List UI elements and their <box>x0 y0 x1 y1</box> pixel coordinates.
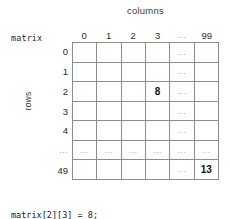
grid-cell <box>73 82 97 102</box>
grid-cell-ellipsis: ... <box>122 141 146 161</box>
grid-cell <box>73 121 97 141</box>
grid-cell-ellipsis: ... <box>170 160 194 180</box>
grid-cell <box>122 43 146 63</box>
matrix-grid: ... ... 8 ... ... ... ... ... ... <box>72 42 219 180</box>
column-header-0: 0 <box>72 29 97 42</box>
grid-cell <box>97 82 121 102</box>
row-header-1: 1 <box>48 62 70 82</box>
grid-cell <box>73 160 97 180</box>
table-row: ... <box>73 43 219 63</box>
table-row: ... <box>73 102 219 122</box>
grid-cell <box>122 102 146 122</box>
table-row-ellipsis: ... ... ... ... ... ... <box>73 141 219 161</box>
table-row: ... <box>73 63 219 83</box>
grid-cell <box>122 82 146 102</box>
column-header-ellipsis: ... <box>170 29 195 42</box>
grid-cell-ellipsis: ... <box>146 141 170 161</box>
table-row: ... 13 <box>73 160 219 180</box>
grid-cell-ellipsis: ... <box>170 63 194 83</box>
row-header-ellipsis: ... <box>48 141 70 161</box>
grid-cell <box>122 121 146 141</box>
grid-cell-ellipsis: ... <box>170 141 194 161</box>
grid-cell <box>97 63 121 83</box>
code-snippet: matrix[2][3] = 8; matrix[49][99] = 13; <box>11 188 113 219</box>
column-header-2: 2 <box>121 29 146 42</box>
row-header-4: 4 <box>48 121 70 141</box>
grid-cell <box>146 160 170 180</box>
grid-cell <box>73 43 97 63</box>
row-header-49: 49 <box>48 160 70 180</box>
table-row: 8 ... <box>73 82 219 102</box>
grid-cell-ellipsis: ... <box>195 141 219 161</box>
grid-cell <box>146 121 170 141</box>
grid-cell <box>146 102 170 122</box>
grid-cell-ellipsis: ... <box>73 141 97 161</box>
column-header-1: 1 <box>97 29 122 42</box>
grid-cell-value-13: 13 <box>195 160 219 180</box>
grid-cell <box>146 43 170 63</box>
grid-cell <box>146 63 170 83</box>
grid-cell <box>195 43 219 63</box>
grid-cell-ellipsis: ... <box>170 43 194 63</box>
column-header-row: 0 1 2 3 ... 99 <box>72 29 219 42</box>
grid-cell <box>97 43 121 63</box>
row-header-column: 0 1 2 3 4 ... 49 <box>48 42 70 180</box>
grid-cell <box>97 121 121 141</box>
row-header-0: 0 <box>48 42 70 62</box>
grid-cell <box>122 160 146 180</box>
grid-cell <box>73 63 97 83</box>
grid-cell-ellipsis: ... <box>170 121 194 141</box>
grid-cell-ellipsis: ... <box>170 102 194 122</box>
code-line-1: matrix[2][3] = 8; <box>11 210 113 219</box>
column-header-3: 3 <box>146 29 171 42</box>
grid-cell-ellipsis: ... <box>97 141 121 161</box>
grid-cell <box>97 102 121 122</box>
grid-cell <box>195 63 219 83</box>
column-header-99: 99 <box>195 29 220 42</box>
grid-cell <box>97 160 121 180</box>
grid-cell <box>195 82 219 102</box>
columns-axis-title: columns <box>72 5 219 16</box>
table-row: ... <box>73 121 219 141</box>
row-header-3: 3 <box>48 101 70 121</box>
grid-cell <box>195 102 219 122</box>
rows-axis-title: rows <box>23 71 33 131</box>
row-header-2: 2 <box>48 81 70 101</box>
grid-cell-value-8: 8 <box>146 82 170 102</box>
grid-cell <box>73 102 97 122</box>
grid-cell <box>195 121 219 141</box>
grid-cell <box>122 63 146 83</box>
grid-cell-ellipsis: ... <box>170 82 194 102</box>
matrix-label: matrix <box>11 33 42 43</box>
